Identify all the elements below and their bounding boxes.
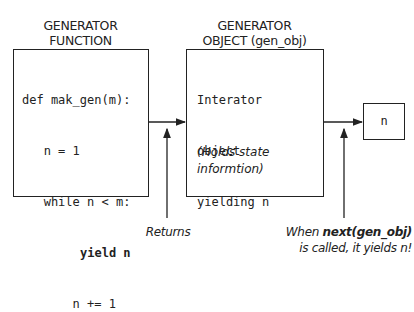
next-call-code: next(gen_obj): [323, 225, 412, 239]
code-line: n += 1: [22, 296, 131, 312]
returns-caption: Returns: [140, 224, 196, 240]
next-caption: When next(gen_obj) is called, it yields …: [260, 224, 412, 256]
next-caption-line1: When next(gen_obj): [260, 224, 412, 240]
next-caption-line2: is called, it yields n!: [260, 240, 412, 256]
